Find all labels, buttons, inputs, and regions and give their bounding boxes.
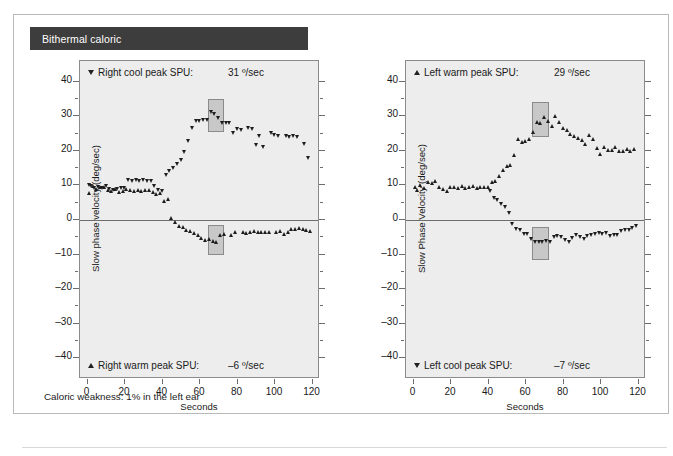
data-point <box>152 184 156 188</box>
data-point <box>179 158 183 162</box>
y-tick-mark <box>73 150 79 151</box>
data-point <box>486 185 490 189</box>
peak-spu-annotation: Left cool peak SPU:–7 º/sec <box>414 360 638 371</box>
x-tick-mark <box>525 379 526 384</box>
data-point <box>493 179 497 183</box>
x-tick-label: 120 <box>618 386 658 397</box>
y-tick-mark-minor <box>320 340 323 341</box>
page-title: Bithermal caloric <box>30 33 121 45</box>
x-tick-label: 80 <box>217 386 257 397</box>
y-tick-mark-minor <box>401 271 404 272</box>
data-point <box>501 168 505 172</box>
data-point <box>497 174 501 178</box>
y-tick-mark <box>645 219 651 220</box>
plot-outer-1: Left warm peak SPU:29 º/secLeft cool pea… <box>405 60 645 378</box>
y-tick-mark-minor <box>646 167 649 168</box>
x-tick-mark <box>124 379 125 384</box>
data-point <box>546 119 550 123</box>
y-tick-mark <box>645 81 651 82</box>
y-tick-label: –20 <box>32 281 72 292</box>
peak-spu-annotation: Right cool peak SPU:31 º/sec <box>88 67 312 78</box>
caloric-weakness-note: Caloric weakness: 1% in the left ear <box>44 391 200 402</box>
y-tick-mark-minor <box>401 305 404 306</box>
y-tick-mark-minor <box>75 236 78 237</box>
y-tick-mark <box>645 115 651 116</box>
peak-spu-value: –6 º/sec <box>228 360 264 371</box>
x-tick-mark <box>274 379 275 384</box>
y-tick-mark <box>399 357 405 358</box>
data-point <box>190 126 194 130</box>
y-tick-mark <box>73 254 79 255</box>
data-point <box>257 134 261 138</box>
data-point <box>214 240 218 244</box>
plot-area-1: Left warm peak SPU:29 º/secLeft cool pea… <box>405 60 645 378</box>
data-point <box>302 142 306 146</box>
x-tick-label: 80 <box>543 386 583 397</box>
x-tick-mark <box>312 379 313 384</box>
peak-spu-value: –7 º/sec <box>554 360 590 371</box>
data-point <box>512 153 516 157</box>
y-tick-mark <box>645 254 651 255</box>
data-point <box>538 121 542 125</box>
data-point <box>591 137 595 141</box>
figure-title-bar: Bithermal caloric <box>30 27 308 50</box>
y-tick-mark <box>319 254 325 255</box>
y-tick-mark <box>73 323 79 324</box>
y-tick-mark-minor <box>320 133 323 134</box>
data-point <box>239 128 243 132</box>
x-tick-mark <box>638 379 639 384</box>
data-point <box>267 230 271 234</box>
y-axis-title-0: Slow phase velocity (deg/sec) <box>90 49 101 369</box>
y-tick-mark <box>73 184 79 185</box>
y-tick-mark-minor <box>401 340 404 341</box>
y-tick-mark-minor <box>320 167 323 168</box>
data-point <box>583 142 587 146</box>
plot-area-0: Right cool peak SPU:31 º/secRight warm p… <box>79 60 319 378</box>
data-point <box>525 232 529 236</box>
data-point <box>510 222 514 226</box>
x-tick-label: 60 <box>505 386 545 397</box>
data-point <box>164 173 168 177</box>
peak-spu-label: Left cool peak SPU: <box>424 360 512 371</box>
x-tick-mark <box>199 379 200 384</box>
data-point <box>175 162 179 166</box>
y-tick-mark <box>73 288 79 289</box>
zero-line <box>80 220 318 221</box>
data-point <box>149 179 153 183</box>
x-tick-mark <box>413 379 414 384</box>
x-tick-mark <box>87 379 88 384</box>
figure-root: Bithermal caloric Right cool peak SPU:31… <box>0 0 673 456</box>
y-tick-mark <box>319 184 325 185</box>
y-tick-label: –10 <box>32 247 72 258</box>
y-tick-mark <box>319 357 325 358</box>
peak-spu-value: 29 º/sec <box>554 67 590 78</box>
y-tick-mark <box>645 323 651 324</box>
y-tick-label: 20 <box>358 143 398 154</box>
x-tick-label: 100 <box>580 386 620 397</box>
peak-spu-value: 31 º/sec <box>228 67 264 78</box>
y-tick-label: 10 <box>358 177 398 188</box>
bottom-divider <box>22 447 667 448</box>
y-tick-mark <box>645 357 651 358</box>
x-tick-mark <box>162 379 163 384</box>
x-tick-label: 120 <box>292 386 332 397</box>
data-point <box>250 127 254 131</box>
data-point <box>615 233 619 237</box>
x-tick-mark <box>563 379 564 384</box>
data-point <box>503 205 507 209</box>
y-tick-label: 40 <box>358 74 398 85</box>
y-tick-mark-minor <box>75 98 78 99</box>
x-tick-mark <box>600 379 601 384</box>
y-tick-mark <box>319 323 325 324</box>
peak-spu-label: Right warm peak SPU: <box>98 360 199 371</box>
y-tick-label: 10 <box>32 177 72 188</box>
data-point <box>582 237 586 241</box>
y-tick-mark-minor <box>646 340 649 341</box>
data-point <box>567 240 571 244</box>
y-tick-label: 20 <box>32 143 72 154</box>
y-tick-mark-minor <box>75 305 78 306</box>
data-point <box>557 120 561 124</box>
data-point <box>254 143 258 147</box>
data-point <box>550 124 554 128</box>
y-tick-label: –40 <box>32 350 72 361</box>
